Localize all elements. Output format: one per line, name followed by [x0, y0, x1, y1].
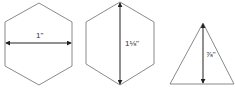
triangle-height-label: ⅞" — [206, 50, 216, 59]
hexagon-width-figure: 1" — [5, 3, 72, 85]
height-label: 1⅛" — [125, 39, 139, 48]
hexagon-outline — [5, 3, 72, 85]
triangle-height-figure: ⅞" — [170, 23, 234, 84]
measurement-diagram: 1" 1⅛" ⅞" — [0, 0, 235, 91]
hexagon-height-figure: 1⅛" — [86, 2, 154, 85]
triangle-outline — [170, 23, 234, 84]
width-label: 1" — [36, 31, 43, 40]
